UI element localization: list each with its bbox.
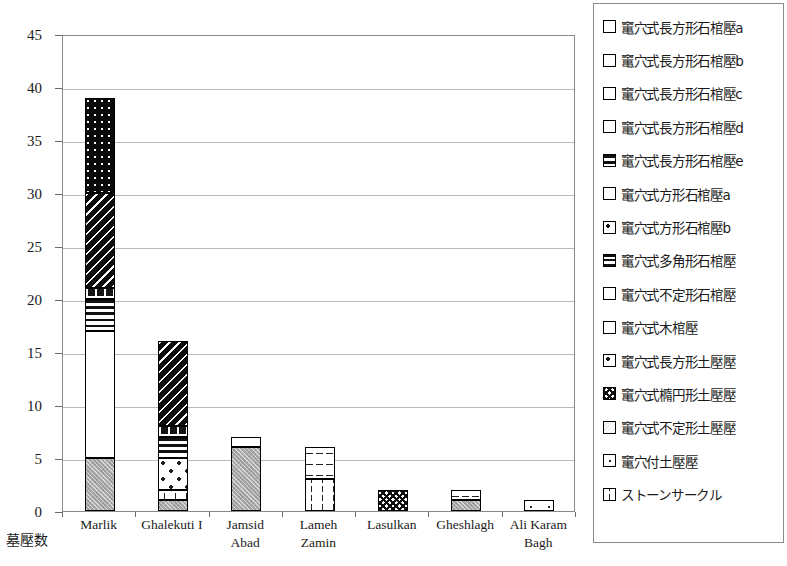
legend-swatch-icon <box>603 488 616 501</box>
legend-item-label: 竃穴式不定形石棺壓 <box>621 284 735 304</box>
y-tick-label: 45 <box>27 28 42 43</box>
gridline <box>63 142 574 143</box>
legend-item[interactable]: 竃穴付土壓壓 <box>594 444 783 477</box>
y-tick-mark <box>55 406 62 407</box>
bar-marlik <box>85 98 115 511</box>
x-tick-label-line: Bagh <box>496 534 581 552</box>
legend-swatch-icon <box>603 187 616 200</box>
chart-canvas: 051015202530354045 墓壓数 MarlikGhalekuti I… <box>0 0 787 566</box>
y-tick-mark <box>55 141 62 142</box>
bar-segment <box>158 490 188 501</box>
bar-segment <box>378 490 408 511</box>
legend-item[interactable]: 竃穴式長方形石棺壓d <box>594 110 783 143</box>
legend-item[interactable]: 竃穴式長方形石棺壓a <box>594 10 783 43</box>
legend-item[interactable]: 竃穴式橢円形土壓壓 <box>594 377 783 410</box>
y-tick-mark <box>55 459 62 460</box>
legend-swatch-icon <box>603 154 616 167</box>
x-tick-mark <box>502 512 503 517</box>
legend-swatch-icon <box>603 254 616 267</box>
x-tick-mark <box>575 512 576 517</box>
legend-item[interactable]: ストーンサークル <box>594 477 783 510</box>
legend-swatch-icon <box>603 87 616 100</box>
x-tick-label-line: Zamin <box>276 534 361 552</box>
legend-item[interactable]: 竃穴式長方形石棺壓c <box>594 77 783 110</box>
bar-ghalekuti-i <box>158 341 188 511</box>
x-tick-mark <box>135 512 136 517</box>
legend-item[interactable]: 竃穴式方形石棺壓b <box>594 210 783 243</box>
bar-segment <box>524 500 554 511</box>
legend-item-label: 竃穴式方形石棺壓a <box>621 184 731 204</box>
x-tick-label: Ali KaramBagh <box>496 516 581 552</box>
legend-item-label: 竃穴式方形石棺壓b <box>621 217 731 237</box>
y-tick-label: 35 <box>27 134 42 149</box>
y-tick-label: 20 <box>27 293 42 308</box>
bar-segment <box>85 299 115 331</box>
legend-item-label: 竃穴式長方形石棺壓c <box>621 83 742 103</box>
bar-segment <box>85 458 115 511</box>
legend-swatch-icon <box>603 387 616 400</box>
gridline <box>63 89 574 90</box>
legend-item-label: 竃穴付土壓壓 <box>621 451 697 471</box>
bar-segment <box>305 447 335 479</box>
x-tick-mark <box>282 512 283 517</box>
legend-item-label: 竃穴式木棺壓 <box>621 317 697 337</box>
legend-swatch-icon <box>603 454 616 467</box>
legend-item[interactable]: 竃穴式不定形石棺壓 <box>594 277 783 310</box>
bar-ali-karam-bagh <box>524 500 554 511</box>
legend-item[interactable]: 竃穴式方形石棺壓a <box>594 177 783 210</box>
legend-swatch-icon <box>603 321 616 334</box>
x-tick-mark <box>209 512 210 517</box>
legend-item-label: ストーンサークル <box>621 484 722 504</box>
bar-segment <box>451 500 481 511</box>
bar-segment <box>451 490 481 501</box>
legend-item-label: 竃穴式長方形石棺壓d <box>621 117 744 137</box>
y-tick-mark <box>55 88 62 89</box>
gridline <box>63 354 574 355</box>
y-axis: 051015202530354045 <box>0 0 56 566</box>
legend-item-label: 竃穴式長方形石棺壓b <box>621 50 744 70</box>
legend-item[interactable]: 竃穴式長方形石棺壓e <box>594 144 783 177</box>
legend: 竃穴式長方形石棺壓a竃穴式長方形石棺壓b竃穴式長方形石棺壓c竃穴式長方形石棺壓d… <box>593 3 784 543</box>
legend-swatch-icon <box>603 20 616 33</box>
bar-segment <box>231 437 261 448</box>
bar-lameh-zamin <box>305 447 335 511</box>
gridline <box>63 407 574 408</box>
gridline <box>63 248 574 249</box>
y-tick-mark <box>55 353 62 354</box>
legend-item[interactable]: 竃穴式不定形土壓壓 <box>594 411 783 444</box>
bar-segment <box>305 479 335 511</box>
bar-segment <box>158 426 188 437</box>
bar-jamsid-abad <box>231 437 261 511</box>
legend-item-label: 竃穴式長方形石棺壓e <box>621 150 743 170</box>
x-tick-mark <box>62 512 63 517</box>
legend-swatch-icon <box>603 354 616 367</box>
y-tick-label: 25 <box>27 240 42 255</box>
bar-gheshlagh <box>451 490 481 511</box>
legend-item[interactable]: 竃穴式多角形石棺壓 <box>594 244 783 277</box>
y-tick-mark <box>55 247 62 248</box>
y-tick-label: 5 <box>35 452 43 467</box>
legend-swatch-icon <box>603 421 616 434</box>
legend-item[interactable]: 竃穴式木棺壓 <box>594 311 783 344</box>
legend-swatch-icon <box>603 221 616 234</box>
bar-lasulkan <box>378 490 408 511</box>
y-tick-label: 10 <box>27 399 42 414</box>
y-tick-mark <box>55 35 62 36</box>
gridline <box>63 301 574 302</box>
bar-segment <box>85 331 115 458</box>
bar-segment <box>158 341 188 426</box>
bar-segment <box>85 288 115 299</box>
y-tick-mark <box>55 300 62 301</box>
legend-item-label: 竃穴式不定形土壓壓 <box>621 417 735 437</box>
legend-item-label: 竃穴式長方形石棺壓a <box>621 17 743 37</box>
x-tick-label-line: Ali Karam <box>496 516 581 534</box>
legend-item[interactable]: 竃穴式長方形石棺壓b <box>594 43 783 76</box>
bar-segment <box>231 447 261 511</box>
legend-item[interactable]: 竃穴式長方形土壓壓 <box>594 344 783 377</box>
bar-segment <box>158 437 188 458</box>
y-tick-mark <box>55 194 62 195</box>
y-tick-label: 0 <box>35 505 43 520</box>
legend-item-label: 竃穴式橢円形土壓壓 <box>621 384 735 404</box>
legend-swatch-icon <box>603 120 616 133</box>
legend-item-label: 竃穴式多角形石棺壓 <box>621 250 735 270</box>
